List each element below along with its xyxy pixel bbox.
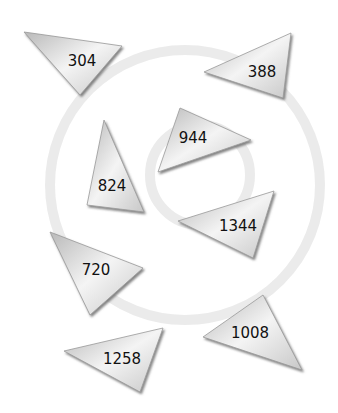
puzzle-canvas: 304388944824134472012581008 xyxy=(0,0,338,413)
triangle-layer xyxy=(0,0,338,413)
triangle-number: 1344 xyxy=(219,217,257,235)
triangle-number: 944 xyxy=(179,129,208,147)
triangle-number: 824 xyxy=(98,177,127,195)
triangle-number: 1258 xyxy=(103,350,141,368)
triangle-824 xyxy=(87,120,144,212)
triangle-number: 720 xyxy=(82,261,111,279)
triangle-number: 304 xyxy=(68,52,97,70)
triangle-number: 1008 xyxy=(231,324,269,342)
triangle-number: 388 xyxy=(248,63,277,81)
